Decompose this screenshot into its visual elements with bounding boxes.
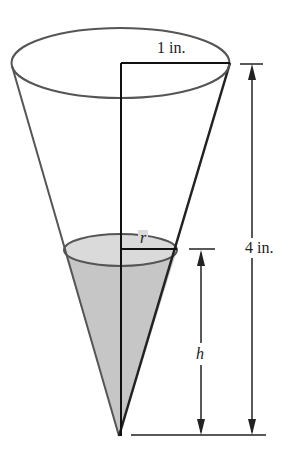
water-height-arrow-up-icon [197, 250, 205, 266]
top-radius-label: 1 in. [157, 40, 185, 56]
water-radius-label: r [138, 230, 148, 246]
height-arrow-down-icon [248, 419, 256, 435]
height-arrow-up-icon [248, 64, 256, 80]
water-height-arrow-down-icon [197, 419, 205, 435]
water-height-label: h [195, 343, 205, 365]
cone-diagram [0, 0, 287, 451]
height-label: 4 in. [245, 238, 273, 258]
